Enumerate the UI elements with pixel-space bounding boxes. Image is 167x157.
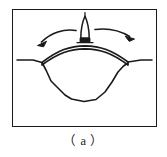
figure-caption: （ a ） — [0, 131, 167, 151]
figure-container: （ a ） — [0, 0, 167, 157]
vehicle-base — [80, 38, 91, 42]
ground-right-line — [128, 60, 152, 62]
ground-left-line — [17, 60, 42, 63]
motion-arrow-right-shaft — [95, 29, 130, 36]
figure-drawing — [0, 0, 167, 130]
arch-deck-lower-curve — [42, 49, 128, 65]
valley-profile — [43, 63, 129, 102]
motion-arrow-left-shaft — [42, 30, 77, 42]
vehicle-body — [81, 16, 89, 38]
